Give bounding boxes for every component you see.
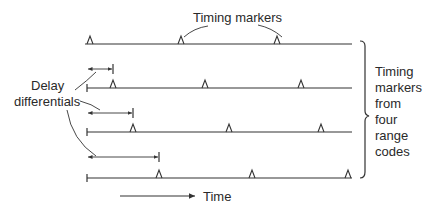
right-label-line: Timing — [375, 64, 414, 79]
right-label-line: markers — [375, 80, 422, 95]
timing-marker-icon — [298, 80, 304, 88]
delay-label: Delay — [31, 78, 65, 93]
right-label-line: four — [375, 112, 398, 127]
leader-delay-3 — [67, 110, 96, 156]
timing-marker-icon — [110, 80, 116, 88]
leader-line-right — [258, 25, 282, 37]
timing-markers-label: Timing markers — [193, 10, 283, 25]
timing-marker-icon — [345, 170, 351, 178]
leader-delay-2 — [80, 101, 100, 110]
right-brace — [360, 41, 369, 178]
timing-marker-icon — [249, 170, 255, 178]
time-label: Time — [203, 189, 231, 204]
timing-marker-icon — [202, 80, 208, 88]
right-label-line: range — [375, 128, 408, 143]
timing-marker-icon — [226, 124, 232, 132]
timing-marker-icon — [178, 36, 184, 44]
timing-marker-icon — [87, 36, 93, 44]
differentials-label: differentials — [14, 94, 81, 109]
timing-marker-icon — [318, 124, 324, 132]
timing-marker-icon — [130, 124, 136, 132]
timing-diagram: Timing markers Delay differentials Timin… — [0, 0, 433, 210]
leader-delay-1 — [75, 72, 96, 90]
timing-marker-icon — [274, 36, 280, 44]
right-label-line: from — [375, 96, 401, 111]
delay-differential-arrows — [88, 64, 159, 162]
right-label: Timingmarkersfromfourrangecodes — [375, 64, 422, 159]
range-code-lines — [85, 36, 352, 182]
right-label-line: codes — [375, 144, 410, 159]
leader-line-left — [184, 26, 208, 37]
timing-marker-icon — [156, 170, 162, 178]
